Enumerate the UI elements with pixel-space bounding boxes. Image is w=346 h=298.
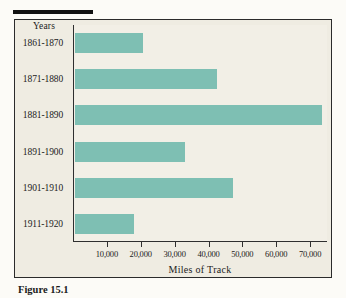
bar <box>75 178 233 198</box>
x-axis-tick-label: 60,000 <box>265 249 287 259</box>
x-axis-tick-label: 20,000 <box>130 249 152 259</box>
figure-caption: Figure 15.1 <box>18 284 69 295</box>
x-axis-tick-label: 50,000 <box>231 249 253 259</box>
x-axis-tick <box>107 242 108 247</box>
category-label: 1891-1900 <box>15 147 71 157</box>
plot-area <box>73 25 327 242</box>
category-label: 1871-1880 <box>15 74 71 84</box>
category-label: 1881-1890 <box>15 110 71 120</box>
x-axis-tick-labels: 10,00020,00030,00040,00050,00060,00070,0… <box>15 249 333 263</box>
x-axis-tick <box>310 242 311 247</box>
category-label-column: Years 1861-18701871-18801881-18901891-19… <box>15 25 73 242</box>
top-rule-decoration <box>13 10 93 14</box>
x-axis-tick <box>175 242 176 247</box>
bar <box>75 214 134 234</box>
figure-frame: Years 1861-18701871-18801881-18901891-19… <box>14 19 332 278</box>
category-column-header: Years <box>15 21 73 31</box>
category-label: 1901-1910 <box>15 183 71 193</box>
x-axis-tick-label: 10,000 <box>96 249 118 259</box>
figure-root: Years 1861-18701871-18801881-18901891-19… <box>0 0 346 298</box>
category-label: 1861-1870 <box>15 38 71 48</box>
bar <box>75 69 217 89</box>
x-axis-tick-label: 70,000 <box>299 249 321 259</box>
bar <box>75 105 322 125</box>
bar <box>75 142 185 162</box>
x-axis-tick-label: 30,000 <box>164 249 186 259</box>
x-axis-tick <box>242 242 243 247</box>
x-axis-tick-label: 40,000 <box>197 249 219 259</box>
x-axis-tick <box>141 242 142 247</box>
bars-layer <box>74 25 327 241</box>
x-axis-tick <box>209 242 210 247</box>
x-axis-title: Miles of Track <box>73 264 327 275</box>
bar <box>75 33 143 53</box>
x-axis-tick <box>276 242 277 247</box>
category-label: 1911-1920 <box>15 219 71 229</box>
